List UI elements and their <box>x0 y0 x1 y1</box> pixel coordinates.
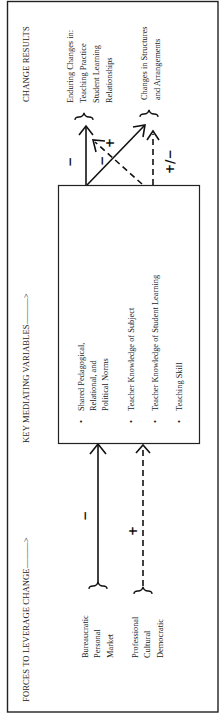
sign-plus: + <box>103 138 117 148</box>
mediating-item-knowledge-subject: • Teacher Knowledge of Subject <box>127 307 136 423</box>
bullet-icon: • <box>77 420 86 423</box>
bullet-icon: • <box>175 420 184 423</box>
result-line: Relationships <box>105 57 114 103</box>
forces-group-bureaucratic: Bureaucratic Personal Market <box>81 615 115 658</box>
arrowhead-icon <box>147 131 159 140</box>
sign-plus: + <box>126 526 140 536</box>
result-line: Changes in Structures <box>140 26 149 100</box>
force-label: Market <box>106 633 115 658</box>
force-label: Professional <box>131 616 140 658</box>
force-label: Cultural <box>143 630 152 658</box>
bullet-icon: • <box>151 420 160 423</box>
force-label: Bureaucratic <box>81 615 90 658</box>
header-key-mediating-variables: KEY MEDIATING VARIABLES———> <box>21 293 31 443</box>
brace-icon <box>89 582 107 589</box>
brace-icon <box>134 587 152 594</box>
result-line: and Arrangements <box>153 39 162 100</box>
sign-minus: − <box>95 156 109 166</box>
mediating-item-line: Political Norms <box>101 358 110 411</box>
header-change-results: CHANGE RESULTS <box>21 26 31 102</box>
brace-icon <box>75 113 93 120</box>
result-changes-structures: Changes in Structures and Arrangements <box>140 26 162 100</box>
mediating-item-knowledge-student-learning: • Teacher Knowledge of Student Learning <box>151 274 160 423</box>
force-label: Personal <box>93 628 102 658</box>
mediating-item-line: Teacher Knowledge of Subject <box>127 307 136 411</box>
bullet-icon: • <box>127 420 136 423</box>
forces-group-professional: Professional Cultural Democratic <box>131 616 165 658</box>
mediating-item-line: Teaching Skill <box>175 362 184 411</box>
mediating-item-line: Teacher Knowledge of Student Learning <box>151 274 160 411</box>
mediating-item-line: Relational, and <box>89 359 98 411</box>
brace-icon <box>140 110 158 117</box>
result-line: Enduring Changes in: <box>66 30 75 103</box>
sign-minus: − <box>78 511 92 521</box>
force-label: Democratic <box>156 619 165 658</box>
sign-minus: − <box>63 157 77 167</box>
solid-arrow-to-structures <box>87 126 144 185</box>
mediating-item-line: Shared Pedagogical, <box>77 343 86 411</box>
header-forces-to-leverage-change: FORCES TO LEVERAGE CHANGE———> <box>21 537 31 702</box>
result-line: Student Learning <box>92 44 101 103</box>
result-line: Teaching Practice <box>79 43 88 103</box>
result-enduring-changes: Enduring Changes in: Teaching Practice S… <box>66 30 114 103</box>
leverage-change-diagram: CHANGE RESULTS KEY MEDIATING VARIABLES——… <box>0 0 224 722</box>
sign-plus-minus: +/− <box>163 150 177 175</box>
